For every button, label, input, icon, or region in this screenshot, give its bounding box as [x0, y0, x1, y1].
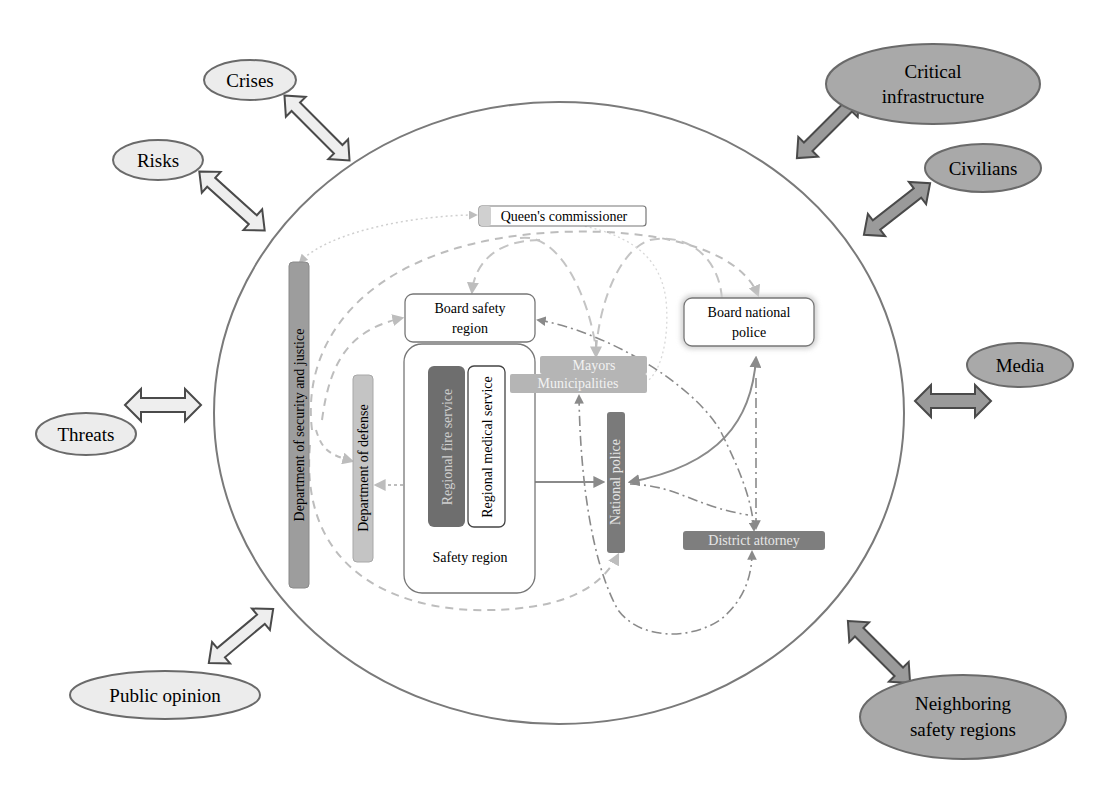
dept-security-justice-label: Department of security and justice	[292, 329, 307, 522]
media-label: Media	[996, 355, 1045, 376]
crises-label: Crises	[226, 70, 274, 91]
public-opinion-label: Public opinion	[109, 685, 221, 706]
national-police-node: National police	[607, 412, 625, 553]
external-neighboring-safety-regions: Neighboring safety regions	[860, 675, 1066, 759]
threats-double-arrow-icon	[125, 389, 201, 421]
external-risks: Risks	[113, 140, 203, 180]
board-safety-region-label-line1: Board safety	[434, 301, 505, 316]
regional-medical-service-node: Regional medical service	[468, 366, 505, 527]
queens-commissioner-node: Queen's commissioner	[479, 206, 646, 226]
neighboring-label-line1: Neighboring	[915, 693, 1012, 714]
threats-label: Threats	[58, 424, 115, 445]
regional-medical-service-label: Regional medical service	[480, 376, 495, 518]
civilians-double-arrow-icon	[855, 172, 938, 246]
external-critical-infrastructure: Critical infrastructure	[826, 44, 1040, 124]
board-national-police-label-line2: police	[732, 325, 766, 340]
critical-infrastructure-label-line1: Critical	[905, 61, 962, 82]
national-police-label: National police	[608, 439, 623, 525]
civilians-label: Civilians	[949, 158, 1018, 179]
stakeholder-diagram: Crises Risks Threats Public opinion Crit…	[0, 0, 1107, 791]
external-civilians: Civilians	[925, 144, 1041, 192]
board-safety-region-label-line2: region	[452, 321, 488, 336]
media-double-arrow-icon	[915, 385, 991, 417]
board-national-police-label-line1: Board national	[708, 305, 791, 320]
external-threats: Threats	[36, 413, 136, 455]
regional-fire-service-label: Regional fire service	[440, 389, 455, 506]
public-opinion-double-arrow-icon	[200, 598, 282, 673]
board-national-police-node: Board national police	[684, 298, 814, 346]
dept-defense-label: Department of defense	[356, 404, 371, 532]
dept-security-justice-node: Department of security and justice	[289, 262, 309, 588]
system-boundary-circle	[214, 102, 904, 724]
external-public-opinion: Public opinion	[70, 671, 260, 719]
district-attorney-label: District attorney	[708, 533, 799, 548]
critical-infrastructure-label-line2: infrastructure	[882, 86, 984, 107]
external-crises: Crises	[204, 60, 296, 100]
district-attorney-node: District attorney	[683, 531, 825, 550]
municipalities-label: Municipalities	[538, 376, 619, 391]
regional-fire-service-node: Regional fire service	[428, 366, 465, 527]
risks-label: Risks	[137, 150, 179, 171]
safety-region-label: Safety region	[432, 550, 507, 565]
queens-commissioner-label: Queen's commissioner	[501, 209, 628, 224]
dept-defense-node: Department of defense	[353, 375, 373, 562]
board-safety-region-node: Board safety region	[405, 294, 535, 342]
neighboring-label-line2: safety regions	[910, 719, 1016, 740]
external-media: Media	[967, 343, 1073, 387]
risks-double-arrow-icon	[190, 161, 274, 241]
crises-double-arrow-icon	[275, 86, 360, 171]
mayors-label: Mayors	[573, 358, 616, 373]
